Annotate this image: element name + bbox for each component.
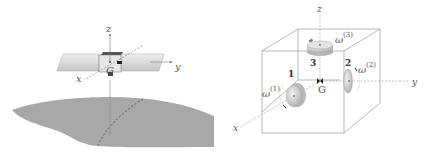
wheel-2-number: 2 xyxy=(345,58,351,68)
center-of-mass-label: G xyxy=(106,65,114,76)
omega-3-symbol: ω xyxy=(335,34,343,45)
diagram-canvas: z y x G z y x xyxy=(0,0,428,155)
x-axis-label: x xyxy=(233,123,238,133)
y-axis-label: y xyxy=(411,77,418,87)
solar-panel-right xyxy=(121,54,164,71)
omega-2-superscript: (2) xyxy=(366,61,376,69)
omega-3-superscript: (3) xyxy=(343,31,353,39)
omega-2-symbol: ω xyxy=(358,64,366,75)
reaction-wheel-1 xyxy=(280,83,306,108)
wheel-1-number: 1 xyxy=(288,69,294,79)
z-axis-label: z xyxy=(316,4,322,14)
center-of-mass-label: G xyxy=(318,84,326,95)
reaction-wheel-3 xyxy=(307,40,333,56)
z-axis-label: z xyxy=(105,23,112,34)
wheel-3-number: 3 xyxy=(310,58,316,68)
x-axis xyxy=(240,81,320,127)
reaction-wheel-2 xyxy=(344,68,360,93)
earth-surface xyxy=(12,97,214,147)
y-axis-label: y xyxy=(174,61,181,72)
omega-1-symbol: ω xyxy=(262,88,270,99)
x-axis-label: x xyxy=(76,73,82,84)
omega-1-superscript: (1) xyxy=(270,85,280,93)
satellite-over-earth-figure: z y x G xyxy=(12,23,214,147)
solar-panel-left xyxy=(57,54,99,71)
reaction-wheel-cube-figure: z y x 3 ω (3) 2 ω (2) xyxy=(233,4,418,133)
